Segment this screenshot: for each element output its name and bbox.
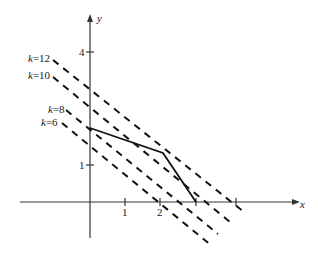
axes: [20, 14, 300, 238]
level-lines: [53, 60, 244, 246]
x-axis-label: x: [299, 198, 305, 210]
y-axis-label: y: [96, 12, 102, 24]
x-tick-label-2: 2: [157, 206, 163, 218]
diagram-canvas: x y 1 2 1 4 k=12 k=10 k=8 k=6: [0, 0, 318, 261]
x-tick-label-1: 1: [122, 206, 128, 218]
level-line-k10: [53, 77, 230, 222]
x-axis-arrow-icon: [292, 199, 300, 205]
label-k6: k=6: [41, 116, 58, 128]
y-axis-arrow-icon: [87, 14, 93, 22]
level-line-k12: [53, 60, 244, 212]
level-line-k8: [66, 110, 218, 234]
y-tick-label-1: 1: [79, 159, 85, 171]
label-k10: k=10: [28, 69, 51, 81]
label-k12: k=12: [28, 52, 50, 64]
feasible-region-boundary: [90, 128, 196, 202]
level-line-k6: [62, 123, 212, 246]
y-tick-label-4: 4: [79, 46, 85, 58]
label-k8: k=8: [48, 103, 65, 115]
